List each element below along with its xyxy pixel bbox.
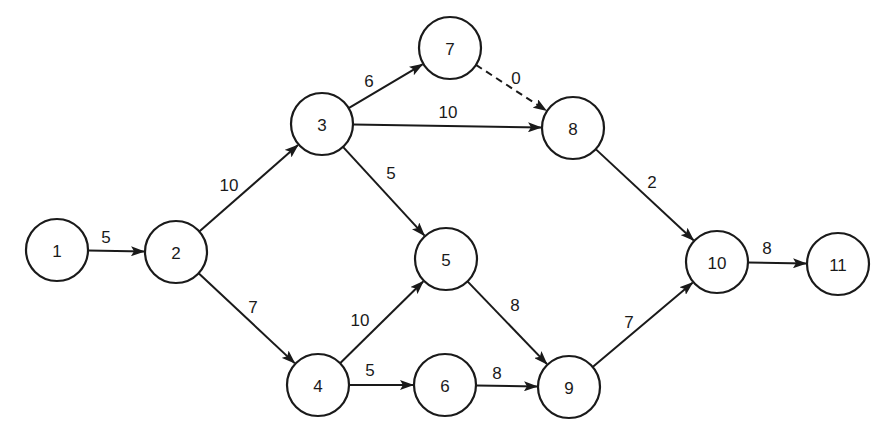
activity-arrow bbox=[343, 147, 424, 236]
node-9: 9 bbox=[538, 356, 600, 418]
edge-3-7: 6 bbox=[349, 64, 423, 108]
edge-6-9: 8 bbox=[476, 364, 537, 387]
node-11: 11 bbox=[807, 233, 869, 295]
edge-duration-label: 8 bbox=[492, 364, 501, 383]
node-1: 1 bbox=[26, 219, 88, 281]
edge-duration-label: 2 bbox=[647, 173, 656, 192]
node-label: 7 bbox=[445, 40, 454, 59]
edge-duration-label: 0 bbox=[511, 69, 520, 88]
edge-duration-label: 10 bbox=[351, 311, 370, 330]
edge-2-3: 10 bbox=[199, 145, 298, 231]
network-diagram: 51076105021058878 1234567891011 bbox=[0, 0, 886, 437]
node-4: 4 bbox=[287, 354, 349, 416]
edge-duration-label: 6 bbox=[364, 72, 373, 91]
nodes-layer: 1234567891011 bbox=[26, 17, 869, 418]
node-label: 6 bbox=[440, 377, 449, 396]
activity-arrow bbox=[199, 273, 295, 363]
edges-layer: 51076105021058878 bbox=[88, 64, 806, 386]
node-label: 2 bbox=[171, 244, 180, 263]
node-label: 1 bbox=[52, 242, 61, 261]
node-label: 3 bbox=[317, 116, 326, 135]
edge-7-8: 0 bbox=[476, 65, 546, 111]
node-2: 2 bbox=[145, 221, 207, 283]
node-label: 11 bbox=[829, 256, 847, 275]
edge-duration-label: 5 bbox=[365, 361, 374, 380]
edge-duration-label: 5 bbox=[101, 228, 110, 247]
activity-arrow bbox=[748, 263, 806, 264]
edge-9-10: 7 bbox=[593, 283, 693, 367]
activity-arrow bbox=[593, 283, 693, 367]
edge-duration-label: 8 bbox=[510, 296, 519, 315]
activity-arrow bbox=[349, 64, 423, 108]
activity-arrow bbox=[353, 124, 541, 127]
activity-arrow bbox=[199, 145, 298, 231]
node-label: 10 bbox=[708, 254, 727, 273]
edge-duration-label: 8 bbox=[762, 239, 771, 258]
edge-4-6: 5 bbox=[349, 361, 413, 386]
node-3: 3 bbox=[291, 93, 353, 155]
activity-arrow bbox=[467, 281, 546, 364]
edge-5-9: 8 bbox=[467, 281, 546, 364]
edge-1-2: 5 bbox=[88, 228, 144, 252]
edge-duration-label: 5 bbox=[386, 164, 395, 183]
node-10: 10 bbox=[686, 231, 748, 293]
node-label: 9 bbox=[564, 379, 573, 398]
edge-duration-label: 7 bbox=[624, 313, 633, 332]
edge-duration-label: 10 bbox=[220, 176, 239, 195]
activity-arrow bbox=[88, 251, 144, 252]
node-6: 6 bbox=[414, 354, 476, 416]
node-label: 4 bbox=[313, 377, 322, 396]
edge-3-8: 10 bbox=[353, 103, 541, 128]
node-5: 5 bbox=[415, 228, 477, 290]
edge-4-5: 10 bbox=[340, 281, 423, 363]
edge-8-10: 2 bbox=[596, 149, 694, 240]
activity-arrow bbox=[596, 149, 694, 240]
node-label: 8 bbox=[568, 120, 577, 139]
node-label: 5 bbox=[441, 251, 450, 270]
activity-arrow bbox=[476, 385, 537, 386]
edge-duration-label: 10 bbox=[439, 103, 458, 122]
node-8: 8 bbox=[542, 97, 604, 159]
edge-10-11: 8 bbox=[748, 239, 806, 264]
node-7: 7 bbox=[419, 17, 481, 79]
edge-3-5: 5 bbox=[343, 147, 424, 236]
edge-duration-label: 7 bbox=[248, 298, 257, 317]
edge-2-4: 7 bbox=[199, 273, 295, 363]
